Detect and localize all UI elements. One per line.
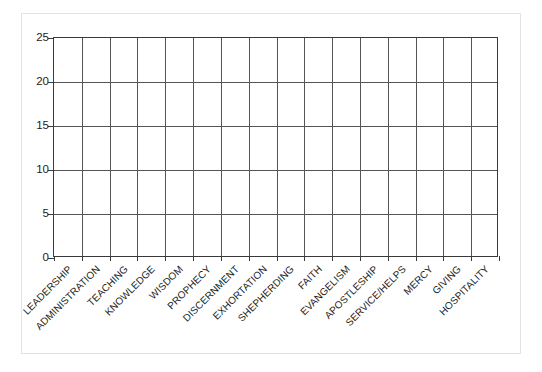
x-axis-label-text: MERCY	[403, 264, 436, 297]
gridline-horizontal	[54, 82, 497, 83]
x-axis-tick	[193, 256, 194, 261]
x-axis-tick	[137, 256, 138, 261]
gridline-vertical	[443, 38, 444, 256]
gridline-horizontal	[54, 126, 497, 127]
x-axis-category-label: MERCY	[403, 264, 436, 297]
gridline-vertical	[249, 38, 250, 256]
x-axis-tick	[304, 256, 305, 261]
gridline-vertical	[110, 38, 111, 256]
y-axis-tick-label: 10	[36, 164, 49, 176]
x-axis-tick	[360, 256, 361, 261]
gridline-vertical	[332, 38, 333, 256]
gridline-vertical	[165, 38, 166, 256]
gridline-vertical	[471, 38, 472, 256]
x-axis-tick	[443, 256, 444, 261]
gridline-horizontal	[54, 214, 497, 215]
y-axis-tick-label: 20	[36, 76, 49, 88]
x-axis-tick	[110, 256, 111, 261]
x-axis-tick	[54, 256, 55, 261]
gridline-vertical	[82, 38, 83, 256]
gridline-vertical	[221, 38, 222, 256]
x-axis-tick	[332, 256, 333, 261]
x-axis-tick	[277, 256, 278, 261]
chart-figure: 0510152025 LEADERSHIPADMINISTRATIONTEACH…	[21, 13, 521, 354]
y-axis-tick-label: 5	[43, 208, 49, 220]
gridline-vertical	[360, 38, 361, 256]
gridline-vertical	[193, 38, 194, 256]
y-axis-tick-label: 0	[43, 252, 49, 264]
chart-plot-area: 0510152025	[53, 37, 498, 257]
x-axis-tick	[165, 256, 166, 261]
x-axis-tick	[471, 256, 472, 261]
x-axis-tick	[249, 256, 250, 261]
gridline-vertical	[416, 38, 417, 256]
gridline-vertical	[388, 38, 389, 256]
y-axis-tick-label: 25	[36, 32, 49, 44]
gridline-vertical	[304, 38, 305, 256]
x-axis-tick	[221, 256, 222, 261]
gridline-vertical	[137, 38, 138, 256]
y-axis-tick-label: 15	[36, 120, 49, 132]
gridline-vertical	[277, 38, 278, 256]
x-axis-tick	[499, 256, 500, 261]
x-axis-tick	[82, 256, 83, 261]
x-axis-tick	[388, 256, 389, 261]
gridline-horizontal	[54, 170, 497, 171]
x-axis-tick	[416, 256, 417, 261]
